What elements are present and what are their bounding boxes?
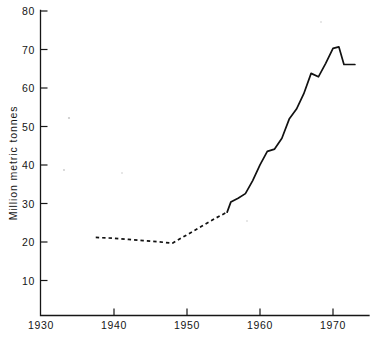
y-tick-label-10: 10: [22, 275, 35, 287]
chart-container: 80 70 60 50 40 30 20 10 1930 1940 1950 1…: [0, 0, 378, 338]
x-tick-label-1970: 1970: [320, 319, 346, 331]
x-tick-label-1940: 1940: [101, 319, 127, 331]
y-tick-label-20: 20: [22, 236, 35, 248]
y-tick-label-40: 40: [22, 159, 35, 171]
series-line-observed: [227, 47, 355, 212]
y-axis-ticks: [41, 11, 48, 281]
axis-lines: [41, 11, 370, 316]
series-line-estimated: [96, 212, 227, 243]
x-axis-ticks: [114, 309, 333, 316]
y-tick-label-50: 50: [22, 121, 35, 133]
line-chart: 80 70 60 50 40 30 20 10 1930 1940 1950 1…: [0, 0, 378, 338]
x-tick-label-1960: 1960: [247, 319, 273, 331]
y-tick-label-30: 30: [22, 198, 35, 210]
y-tick-label-80: 80: [22, 5, 35, 17]
x-tick-label-1950: 1950: [174, 319, 200, 331]
x-tick-label-1930: 1930: [28, 319, 54, 331]
y-axis-title: Million metric tonnes: [7, 106, 19, 221]
y-tick-label-70: 70: [22, 44, 35, 56]
scan-artifacts: [63, 21, 322, 222]
y-tick-label-60: 60: [22, 82, 35, 94]
